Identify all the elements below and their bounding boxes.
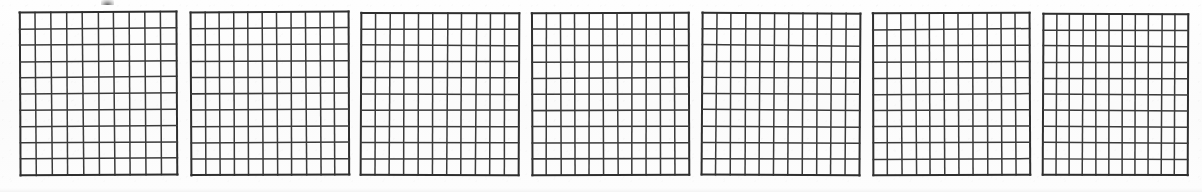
grid-line-horizontal <box>702 28 860 29</box>
grid-line-horizontal <box>873 175 1030 176</box>
grid-line-horizontal <box>361 175 519 176</box>
grid-line-horizontal <box>191 77 349 78</box>
grid-line-horizontal <box>361 77 519 78</box>
grid-line-horizontal <box>702 142 860 143</box>
grid-line-horizontal <box>1043 175 1188 176</box>
grid-4 <box>532 13 690 176</box>
grid-line-horizontal <box>191 12 349 13</box>
grid-line-horizontal <box>532 142 689 143</box>
grid-line-horizontal <box>20 109 177 110</box>
grid-line-horizontal <box>191 109 349 110</box>
grid-line-horizontal <box>702 77 860 78</box>
grid-line-horizontal <box>20 93 177 94</box>
grid-line-horizontal <box>20 61 177 62</box>
grid-line-horizontal <box>532 175 689 176</box>
grid-line-horizontal <box>361 109 519 110</box>
grid-line-horizontal <box>361 94 519 95</box>
page-edge-shadow <box>0 188 1202 192</box>
grid-line-horizontal <box>1043 142 1188 143</box>
grid-line-horizontal <box>191 158 349 159</box>
grid-line-horizontal <box>361 45 519 46</box>
grid-line-horizontal <box>873 126 1030 127</box>
grid-line-horizontal <box>191 61 349 62</box>
grid-line-horizontal <box>1043 62 1188 63</box>
grid-line-horizontal <box>873 45 1030 46</box>
grid-line-horizontal <box>873 142 1030 143</box>
grid-line-horizontal <box>19 11 176 12</box>
grid-line-horizontal <box>873 13 1030 14</box>
grid-line-horizontal <box>702 158 860 159</box>
grid-line-horizontal <box>702 126 860 127</box>
grid-line-horizontal <box>20 158 177 159</box>
grid-6 <box>873 13 1031 176</box>
grid-line-horizontal <box>873 78 1030 79</box>
grid-line-horizontal <box>1043 126 1188 127</box>
grid-line-horizontal <box>1043 110 1188 111</box>
grid-line-horizontal <box>361 142 519 143</box>
grid-line-horizontal <box>873 62 1030 63</box>
grid-line-horizontal <box>702 109 860 110</box>
grid-line-horizontal <box>1043 94 1188 95</box>
grid-line-horizontal <box>191 174 349 175</box>
grid-line-horizontal <box>873 29 1030 30</box>
grid-line-horizontal <box>532 62 689 63</box>
grid-line-horizontal <box>20 44 177 45</box>
ink-smudge-icon <box>101 0 114 5</box>
grid-line-horizontal <box>1043 30 1188 31</box>
grid-line-horizontal <box>873 159 1030 160</box>
grid-line-horizontal <box>1043 46 1188 47</box>
grid-line-horizontal <box>532 94 689 95</box>
grid-line-horizontal <box>21 174 178 176</box>
grid-line-horizontal <box>1043 159 1188 160</box>
grid-line-horizontal <box>532 45 689 46</box>
grid-line-horizontal <box>532 29 689 30</box>
grid-line-horizontal <box>361 61 519 62</box>
grid-line-horizontal <box>191 28 349 29</box>
grid-line-horizontal <box>532 77 689 78</box>
grid-line-horizontal <box>532 13 689 14</box>
grid-5 <box>702 13 861 176</box>
grid-1 <box>19 11 177 175</box>
grid-line-horizontal <box>191 142 349 143</box>
grid-line-horizontal <box>873 110 1030 111</box>
grid-line-horizontal <box>191 93 349 94</box>
grid-line-horizontal <box>532 158 689 159</box>
grid-line-horizontal <box>191 44 349 45</box>
grid-line-horizontal <box>873 94 1030 95</box>
grid-7 <box>1043 14 1189 176</box>
grid-line-horizontal <box>20 125 177 126</box>
grid-line-horizontal <box>702 93 860 94</box>
scanned-grid-sheet <box>0 0 1202 192</box>
grid-line-horizontal <box>1043 78 1188 79</box>
grid-line-horizontal <box>702 61 860 62</box>
grid-line-horizontal <box>20 28 177 29</box>
grid-3 <box>361 13 520 176</box>
grid-line-horizontal <box>361 29 519 30</box>
grid-line-horizontal <box>361 158 519 159</box>
grid-line-horizontal <box>20 142 177 143</box>
grid-line-horizontal <box>702 174 860 175</box>
grid-line-horizontal <box>191 126 349 127</box>
grid-line-horizontal <box>361 126 519 127</box>
grid-line-horizontal <box>702 45 860 47</box>
grid-line-horizontal <box>532 110 689 111</box>
grid-line-horizontal <box>702 13 860 14</box>
grid-line-horizontal <box>1043 14 1188 15</box>
grid-line-horizontal <box>361 13 519 14</box>
grid-line-horizontal <box>20 76 177 77</box>
grid-line-horizontal <box>532 126 689 127</box>
grid-2 <box>191 12 350 176</box>
